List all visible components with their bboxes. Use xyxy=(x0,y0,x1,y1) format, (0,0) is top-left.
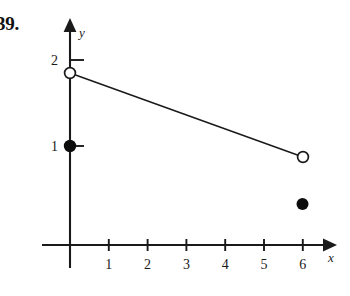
function-segment xyxy=(70,73,303,157)
x-tick-label-4: 4 xyxy=(222,257,229,272)
coordinate-plot: y x 2 1 1 2 3 4 5 6 xyxy=(0,0,350,296)
x-tick-label-6: 6 xyxy=(299,257,306,272)
open-circle-endpoint-left xyxy=(65,68,76,79)
x-tick-label-2: 2 xyxy=(144,257,151,272)
filled-dot-at-y-one xyxy=(64,140,76,152)
x-tick-label-1: 1 xyxy=(105,257,112,272)
figure-root: 39. xyxy=(0,0,350,296)
y-tick-label-2: 2 xyxy=(51,53,58,68)
x-tick-label-3: 3 xyxy=(183,257,190,272)
y-tick-label-1: 1 xyxy=(51,139,58,154)
y-axis-arrowhead xyxy=(64,18,77,32)
filled-dot-at-x-six xyxy=(297,198,309,210)
x-axis-label: x xyxy=(327,250,334,265)
y-axis-label: y xyxy=(77,25,85,40)
x-tick-label-5: 5 xyxy=(261,257,268,272)
open-circle-endpoint-right xyxy=(298,152,309,163)
